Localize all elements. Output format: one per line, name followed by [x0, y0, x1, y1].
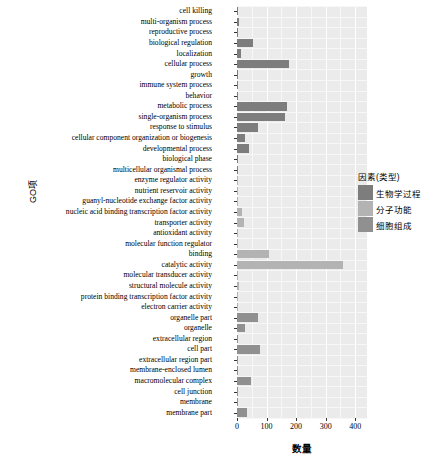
bar: [237, 18, 239, 26]
legend-color-swatch: [358, 217, 373, 232]
bar: [237, 218, 244, 226]
gridline-horizontal: [237, 217, 367, 218]
y-axis-tick-label: cellular component organization or bioge…: [72, 134, 212, 142]
legend-label: 分子功能: [376, 203, 412, 215]
gridline-horizontal: [237, 48, 367, 49]
gridline-horizontal: [237, 27, 367, 28]
y-axis-tick-label: immune system process: [139, 81, 212, 89]
y-axis-tick-label: biological phase: [162, 155, 212, 163]
y-axis-tick-label: molecular function regulator: [125, 240, 212, 248]
gridline-horizontal: [237, 80, 367, 81]
bar: [237, 303, 238, 311]
x-axis-tick-label: 400: [335, 422, 375, 431]
x-axis-title: 数量: [237, 441, 367, 455]
bar: [237, 49, 241, 57]
gridline-horizontal: [237, 407, 367, 408]
bar: [237, 282, 239, 290]
y-axis-tick-label: cell part: [187, 345, 212, 353]
go-enrichment-bar-chart: GO项 cell killingmulti-organism processre…: [0, 0, 444, 458]
gridline-horizontal: [237, 186, 367, 187]
y-axis-tick-label: multi-organism process: [141, 18, 212, 26]
gridline-horizontal: [237, 323, 367, 324]
y-axis-tick-label: electron carrier activity: [141, 303, 212, 311]
gridline-horizontal: [237, 196, 367, 197]
y-axis-tick-label: structural molecule activity: [129, 282, 212, 290]
y-axis-tick-label: reproductive process: [149, 28, 212, 36]
gridline-horizontal: [237, 376, 367, 377]
gridline-horizontal: [237, 238, 367, 239]
bar: [237, 155, 238, 163]
bar: [237, 208, 242, 216]
gridline-horizontal: [237, 302, 367, 303]
bar: [237, 408, 247, 416]
y-axis-tick-label: organelle: [184, 324, 212, 332]
bar: [237, 271, 238, 279]
y-axis-tick-label: growth: [190, 71, 212, 79]
bar: [237, 113, 285, 121]
gridline-horizontal: [237, 228, 367, 229]
bar: [237, 197, 238, 205]
legend-label: 细胞组成: [376, 219, 412, 231]
y-axis-tick-label: cell killing: [179, 7, 212, 15]
gridline-horizontal: [237, 17, 367, 18]
gridline-major: [326, 6, 327, 418]
x-axis-tick-mark: [267, 418, 268, 421]
gridline-horizontal: [237, 69, 367, 70]
bar: [237, 377, 251, 385]
y-axis-title: GO项: [26, 162, 39, 222]
bar: [237, 28, 238, 36]
legend-color-swatch: [358, 201, 373, 216]
x-axis-tick-mark: [326, 418, 327, 421]
y-axis-tick-label: membrane: [180, 398, 212, 406]
y-axis-tick-label: biological regulation: [149, 39, 212, 47]
bar: [237, 366, 238, 374]
legend: 因素(类型) 生物学过程分子功能细胞组成: [358, 170, 421, 233]
legend-title: 因素(类型): [358, 170, 421, 182]
bar: [237, 398, 238, 406]
legend-items: 生物学过程分子功能细胞组成: [358, 185, 421, 232]
y-axis-tick-label: multicellular organismal process: [113, 166, 212, 174]
bar: [237, 39, 253, 47]
gridline-horizontal: [237, 333, 367, 334]
y-axis-tick-label: guanyl-nucleotide exchange factor activi…: [82, 197, 212, 205]
bar: [237, 134, 245, 142]
gridline-horizontal: [237, 175, 367, 176]
x-axis-tick-mark: [237, 418, 238, 421]
y-axis-tick-label: organelle part: [170, 314, 212, 322]
bar: [237, 345, 260, 353]
bar: [237, 60, 289, 68]
y-axis-tick-label: single-organism process: [139, 113, 212, 121]
gridline-horizontal: [237, 143, 367, 144]
bar: [237, 335, 238, 343]
y-axis-tick-label: response to stimulus: [150, 123, 212, 131]
gridline-horizontal: [237, 281, 367, 282]
gridline-horizontal: [237, 133, 367, 134]
y-axis-tick-label: metabolic process: [157, 102, 212, 110]
y-axis-tick-label: behavior: [185, 92, 212, 100]
gridline-horizontal: [237, 291, 367, 292]
bar: [237, 356, 238, 364]
y-axis-tick-label: catalytic activity: [162, 261, 212, 269]
bar: [237, 123, 258, 131]
x-axis-tick-mark: [355, 418, 356, 421]
gridline-major: [296, 6, 297, 418]
y-axis-tick-label: nutrient reservoir activity: [135, 187, 212, 195]
bar: [237, 176, 238, 184]
gridline-horizontal: [237, 154, 367, 155]
bar: [237, 102, 287, 110]
bar: [237, 387, 238, 395]
y-axis-tick-label: transporter activity: [154, 219, 212, 227]
bar: [237, 7, 238, 15]
gridline-horizontal: [237, 386, 367, 387]
y-axis-tick-label: cellular process: [165, 60, 212, 68]
legend-color-swatch: [358, 185, 373, 200]
bar: [237, 324, 245, 332]
y-axis-tick-label: nucleic acid binding transcription facto…: [66, 208, 212, 216]
y-axis-tick-label: extracellular region part: [139, 356, 212, 364]
y-axis-tick-label: macromolecular complex: [135, 377, 212, 385]
bar: [237, 166, 238, 174]
legend-item: 生物学过程: [358, 185, 421, 200]
legend-item: 细胞组成: [358, 217, 421, 232]
gridline-horizontal: [237, 6, 367, 7]
gridline-horizontal: [237, 355, 367, 356]
